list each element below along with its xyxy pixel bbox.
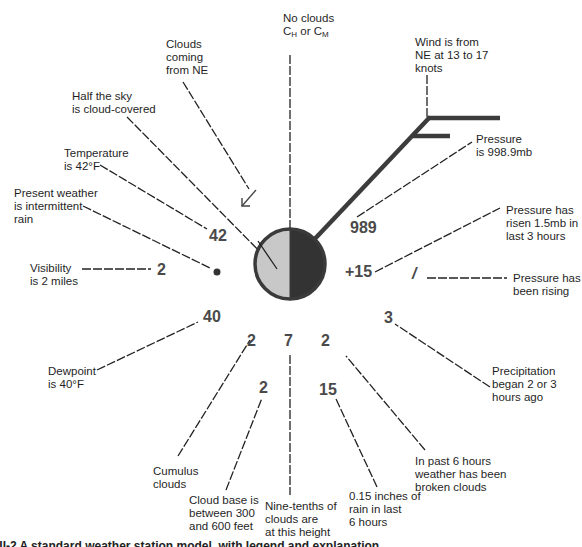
station-circle bbox=[254, 228, 326, 300]
visibility-value: 2 bbox=[157, 262, 166, 278]
rain-inches-label: 0.15 inches of rain in last 6 hours bbox=[349, 490, 421, 529]
pressure-value: 989 bbox=[350, 220, 377, 236]
pressure-rising-label: Pressure has been rising bbox=[513, 272, 581, 298]
half-sky-label: Half the sky is cloud-covered bbox=[72, 90, 156, 116]
nine-tenths-label: Nine-tenths of clouds are at this height bbox=[265, 500, 337, 539]
cloud-direction-arrow-icon bbox=[242, 190, 256, 206]
visibility-label: Visibility is 2 miles bbox=[30, 262, 78, 288]
pressure-change-value: +15 bbox=[345, 264, 372, 280]
cumulus-label: Cumulus clouds bbox=[153, 465, 198, 491]
cloud-amount-value: 7 bbox=[284, 333, 293, 349]
cloud-base-label: Cloud base is between 300 and 600 feet bbox=[189, 494, 259, 533]
past-6-hours-label: In past 6 hours weather has been broken … bbox=[415, 455, 506, 494]
cloud-base-height-value: 2 bbox=[259, 380, 268, 396]
clouds-coming-label: Clouds coming from NE bbox=[166, 38, 208, 77]
pressure-tendency-symbol: / bbox=[412, 266, 416, 282]
temperature-value: 42 bbox=[209, 228, 227, 244]
dewpoint-label: Dewpoint is 40°F bbox=[48, 365, 96, 391]
figure-caption: III-2 A standard weather station model, … bbox=[0, 538, 379, 547]
pressure-label: Pressure is 998.9mb bbox=[476, 133, 532, 159]
dewpoint-value: 40 bbox=[203, 309, 221, 325]
low-cloud-type-value: 2 bbox=[247, 333, 256, 349]
temperature-label: Temperature is 42°F bbox=[64, 147, 129, 173]
present-weather-label: Present weather is intermittent rain bbox=[14, 187, 98, 226]
no-clouds-label: No clouds CH or CM bbox=[283, 12, 334, 41]
station-model-diagram: 42 2 40 989 +15 / 3 2 7 2 2 15 No clouds… bbox=[0, 0, 582, 547]
past-weather-value: 2 bbox=[321, 333, 330, 349]
rainfall-value: 15 bbox=[319, 382, 337, 398]
precipitation-label: Precipitation began 2 or 3 hours ago bbox=[492, 365, 557, 404]
precip-time-value: 3 bbox=[384, 310, 393, 326]
present-weather-dot-icon bbox=[214, 269, 221, 276]
wind-label: Wind is from NE at 13 to 17 knots bbox=[415, 36, 489, 75]
pressure-risen-label: Pressure has risen 1.5mb in last 3 hours bbox=[506, 204, 578, 243]
